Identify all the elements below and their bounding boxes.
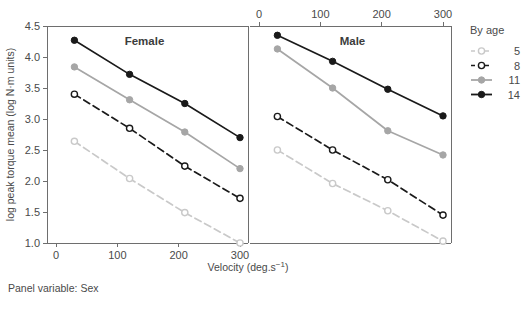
data-point-age-14 bbox=[274, 32, 280, 38]
legend-marker-age-5 bbox=[478, 48, 484, 54]
data-point-age-8 bbox=[440, 212, 446, 218]
chart-figure: 1.01.52.02.53.03.54.04.50100200300010020… bbox=[0, 0, 530, 315]
data-point-age-5 bbox=[71, 138, 77, 144]
legend: By age581114 bbox=[470, 24, 520, 101]
panel-titles: FemaleMale bbox=[125, 35, 366, 47]
female-x-tick-group: 0100200300 bbox=[53, 243, 249, 261]
legend-marker-age-8 bbox=[478, 62, 484, 68]
legend-label-age-8: 8 bbox=[514, 60, 520, 72]
data-point-age-11 bbox=[385, 128, 391, 134]
x-tick-label: 0 bbox=[53, 249, 59, 261]
data-point-age-14 bbox=[126, 71, 132, 77]
data-point-age-14 bbox=[182, 100, 188, 106]
x-tick-label: 100 bbox=[311, 8, 329, 20]
legend-label-age-14: 14 bbox=[508, 89, 520, 101]
x-tick-label: 300 bbox=[434, 8, 452, 20]
data-point-age-5 bbox=[182, 210, 188, 216]
panel-line-chart: 1.01.52.02.53.03.54.04.50100200300010020… bbox=[0, 0, 530, 315]
data-point-age-5 bbox=[127, 175, 133, 181]
y-tick-label: 1.5 bbox=[25, 206, 40, 218]
x-tick-label: 100 bbox=[108, 249, 126, 261]
legend-marker-age-14 bbox=[478, 91, 484, 97]
series-line-age-14 bbox=[277, 35, 443, 116]
data-point-age-8 bbox=[237, 195, 243, 201]
series-line-age-5 bbox=[277, 150, 443, 241]
data-point-age-11 bbox=[182, 129, 188, 135]
x-axis-title-main: Velocity (deg.s bbox=[208, 261, 276, 273]
panel-title-female: Female bbox=[125, 35, 165, 47]
data-point-age-5 bbox=[385, 208, 391, 214]
data-point-age-5 bbox=[237, 240, 243, 246]
data-point-age-14 bbox=[71, 37, 77, 43]
data-point-age-11 bbox=[329, 85, 335, 91]
x-tick-label: 200 bbox=[372, 8, 390, 20]
y-tick-label: 2.5 bbox=[25, 144, 40, 156]
y-axis-title: log peak torque mean (log N·m units) bbox=[4, 48, 16, 221]
data-point-age-11 bbox=[237, 165, 243, 171]
series-line-age-11 bbox=[74, 67, 240, 169]
data-point-age-14 bbox=[385, 86, 391, 92]
data-point-age-11 bbox=[126, 97, 132, 103]
series-line-age-14 bbox=[74, 40, 240, 137]
data-point-age-8 bbox=[330, 147, 336, 153]
data-point-age-11 bbox=[440, 152, 446, 158]
y-tick-label: 4.5 bbox=[25, 20, 40, 32]
data-point-age-8 bbox=[385, 177, 391, 183]
male-x-tick-group: 0100200300 bbox=[256, 8, 452, 26]
x-tick-label: 200 bbox=[169, 249, 187, 261]
series-line-age-5 bbox=[74, 141, 240, 243]
x-tick-label: 300 bbox=[231, 249, 249, 261]
panel-female bbox=[71, 37, 243, 246]
y-tick-group: 1.01.52.02.53.03.54.04.5 bbox=[25, 20, 47, 249]
panel-male bbox=[274, 32, 446, 244]
data-point-age-11 bbox=[71, 64, 77, 70]
x-tick-label: 0 bbox=[256, 8, 262, 20]
data-point-age-14 bbox=[237, 134, 243, 140]
legend-item-age-14[interactable]: 14 bbox=[471, 89, 520, 101]
series-line-age-8 bbox=[74, 94, 240, 198]
y-tick-label: 3.5 bbox=[25, 82, 40, 94]
legend-item-age-11[interactable]: 11 bbox=[471, 74, 520, 86]
x-axis-title-text: Velocity (deg.s−1) bbox=[208, 260, 289, 273]
y-tick-label: 3.0 bbox=[25, 113, 40, 125]
data-point-age-11 bbox=[274, 46, 280, 52]
legend-label-age-5: 5 bbox=[514, 45, 520, 57]
data-point-age-5 bbox=[274, 147, 280, 153]
y-tick-label: 2.0 bbox=[25, 175, 40, 187]
data-point-age-8 bbox=[71, 91, 77, 97]
x-axis-title: Velocity (deg.s−1) bbox=[208, 260, 289, 273]
y-tick-label: 1.0 bbox=[25, 237, 40, 249]
data-point-age-8 bbox=[127, 125, 133, 131]
legend-item-age-5[interactable]: 5 bbox=[471, 45, 520, 57]
legend-label-age-11: 11 bbox=[509, 74, 520, 86]
x-axis-title-close: ) bbox=[285, 261, 289, 273]
legend-marker-age-11 bbox=[478, 77, 484, 83]
series-line-age-11 bbox=[277, 49, 443, 155]
legend-title: By age bbox=[470, 24, 504, 36]
data-point-age-5 bbox=[330, 180, 336, 186]
data-point-age-14 bbox=[440, 113, 446, 119]
panel-title-male: Male bbox=[340, 35, 366, 47]
data-point-age-8 bbox=[274, 113, 280, 119]
data-point-age-5 bbox=[440, 238, 446, 244]
legend-item-age-8[interactable]: 8 bbox=[471, 60, 520, 72]
data-point-age-8 bbox=[182, 163, 188, 169]
y-tick-label: 4.0 bbox=[25, 51, 40, 63]
data-point-age-14 bbox=[329, 58, 335, 64]
